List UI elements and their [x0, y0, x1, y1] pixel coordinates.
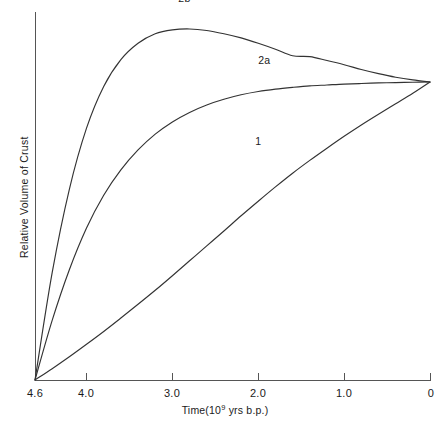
- x-axis-title-suffix: yrs b.p.): [226, 404, 269, 416]
- x-ticklabel-4: 1.0: [336, 387, 352, 399]
- x-axis-title: Time(109 yrs b.p.): [182, 403, 269, 416]
- chart-container: 4.6 4.0 3.0 2.0 1.0 0 Time(109 yrs b.p.)…: [0, 0, 444, 435]
- series-curve-2b: [35, 29, 430, 380]
- x-ticklabel-5: 0: [428, 387, 434, 399]
- x-ticklabel-0: 4.6: [27, 387, 43, 399]
- x-axis-tick-labels: 4.6 4.0 3.0 2.0 1.0 0: [27, 387, 434, 399]
- series-label-2a: 2a: [258, 54, 270, 66]
- x-ticklabel-2: 3.0: [164, 387, 180, 399]
- series-label-2b: 2b: [178, 0, 190, 4]
- series-curve-1: [35, 82, 430, 380]
- x-axis-ticks: [36, 373, 431, 380]
- series-curve-2a: [35, 82, 430, 380]
- x-ticklabel-3: 2.0: [250, 387, 266, 399]
- y-axis-title: Relative Volume of Crust: [18, 136, 30, 258]
- series-label-1: 1: [255, 135, 261, 147]
- crust-volume-line-chart: 4.6 4.0 3.0 2.0 1.0 0 Time(109 yrs b.p.)…: [0, 0, 444, 435]
- x-axis-title-prefix: Time(10: [182, 404, 222, 416]
- x-ticklabel-1: 4.0: [78, 387, 94, 399]
